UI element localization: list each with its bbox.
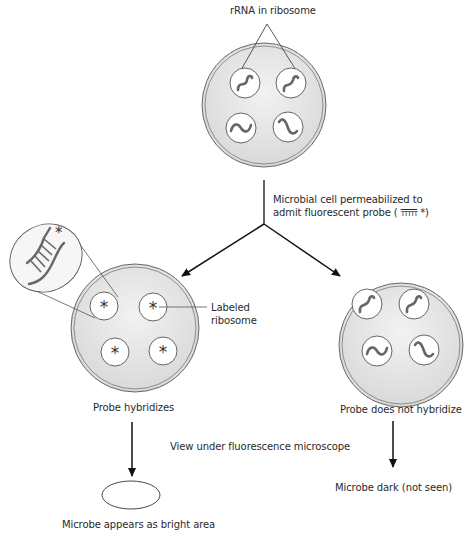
fluor-star-icon: *	[100, 297, 109, 317]
label-microbe-bright: Microbe appears as bright area	[62, 518, 215, 531]
probe-glyph-icon: ΤΤΤΤΤ	[401, 210, 417, 218]
hybridization-inset: *	[0, 211, 95, 305]
arrow-to-hybridized	[182, 224, 264, 276]
ribosome-labeled: *	[149, 337, 177, 365]
ribosome-labeled: *	[90, 292, 118, 320]
ribosome-labeled: *	[101, 338, 129, 366]
label-labeled-ribosome-2: ribosome	[211, 314, 257, 327]
ribosome	[226, 113, 256, 143]
label-permeabilized-line1: Microbial cell permeabilized to	[273, 193, 423, 206]
diagram-canvas: * * * * *	[0, 0, 471, 537]
arrow-to-not-hybridized	[264, 224, 340, 276]
ribosome	[409, 335, 439, 365]
label-probe-hybridizes: Probe hybridizes	[93, 401, 174, 414]
ribosome	[399, 289, 429, 319]
label-labeled-ribosome-1: Labeled	[211, 301, 250, 314]
ribosome	[230, 68, 260, 98]
fluor-star-icon: *	[149, 298, 158, 318]
label-view-microscope: View under fluorescence microscope	[170, 440, 350, 453]
top-cell	[202, 24, 326, 167]
ribosome	[362, 336, 392, 366]
bright-microbe-ellipse	[102, 481, 160, 509]
ribosome	[273, 112, 303, 142]
fluor-star-icon: *	[111, 343, 120, 363]
non-hybridized-cell	[339, 283, 463, 407]
label-permeabilized-line2: admit fluorescent probe ( ΤΤΤΤΤ *)	[273, 206, 429, 221]
label-microbe-dark: Microbe dark (not seen)	[335, 481, 452, 494]
ribosome	[352, 289, 382, 319]
label-probe-not-hybridize: Probe does not hybridize	[340, 403, 462, 416]
fluor-star-icon: *	[55, 224, 63, 242]
fluor-star-icon: *	[159, 342, 168, 362]
label-rrna-in-ribosome: rRNA in ribosome	[230, 4, 316, 17]
ribosome	[276, 68, 306, 98]
